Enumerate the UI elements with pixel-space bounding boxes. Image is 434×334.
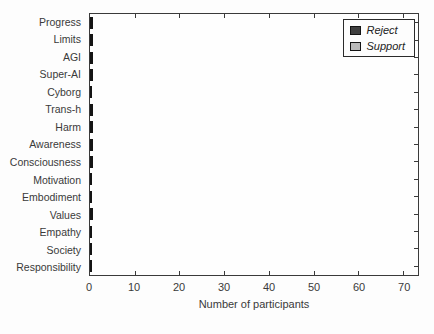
bar-row: [90, 84, 418, 101]
stacked-bar: [90, 260, 92, 272]
bar-segment-support: [91, 104, 93, 116]
x-tick-label: 10: [128, 281, 140, 293]
bar-segment-support: [90, 173, 92, 185]
legend-item-reject: Reject: [350, 24, 405, 36]
x-axis-tick: [269, 14, 270, 18]
y-axis-tick: [414, 74, 418, 75]
legend-swatch-support: [350, 42, 361, 51]
chart-figure: ProgressLimitsAGISuper-AICyborgTrans-hHa…: [0, 0, 434, 334]
bar-row: [90, 66, 418, 83]
x-axis-tick: [179, 271, 180, 275]
legend-item-support: Support: [350, 40, 405, 52]
x-axis-tick: [224, 14, 225, 18]
x-axis-tick: [135, 271, 136, 275]
x-axis-tick: [314, 14, 315, 18]
bar-row: [90, 136, 418, 153]
y-axis-tick: [414, 57, 418, 58]
stacked-bar: [90, 104, 93, 116]
y-axis-tick: [414, 214, 418, 215]
bar-row: [90, 240, 418, 257]
category-label: Responsibility: [0, 258, 85, 276]
bar-segment-support: [91, 34, 93, 46]
x-axis-tick: [135, 14, 136, 18]
stacked-bar: [90, 156, 93, 168]
bar-segment-support: [91, 121, 93, 133]
bar-row: [90, 101, 418, 118]
x-axis-title: Number of participants: [89, 298, 419, 310]
stacked-bar: [90, 191, 92, 203]
y-axis-tick: [414, 40, 418, 41]
bar-row: [90, 153, 418, 170]
stacked-bar: [90, 173, 92, 185]
y-axis-tick: [414, 144, 418, 145]
x-axis-tick: [358, 14, 359, 18]
x-tick-label: 60: [353, 281, 365, 293]
x-axis-tick: [403, 14, 404, 18]
y-axis-tick: [414, 22, 418, 23]
bar-segment-support: [91, 139, 93, 151]
x-tick-label: 0: [86, 281, 92, 293]
stacked-bar: [90, 86, 92, 98]
bar-segment-support: [91, 156, 93, 168]
stacked-bar: [90, 52, 93, 64]
category-label: Empathy: [0, 223, 85, 241]
bar-row: [90, 118, 418, 135]
bar-segment-support: [91, 69, 93, 81]
stacked-bar: [90, 34, 93, 46]
y-axis-tick: [414, 231, 418, 232]
category-label: Progress: [0, 13, 85, 31]
bar-segment-support: [90, 86, 92, 98]
y-axis-tick: [414, 161, 418, 162]
category-label: AGI: [0, 48, 85, 66]
x-tick-label: 40: [263, 281, 275, 293]
stacked-bar: [90, 226, 92, 238]
category-label: Harm: [0, 118, 85, 136]
x-axis-tick: [269, 271, 270, 275]
category-label: Values: [0, 206, 85, 224]
stacked-bar: [90, 208, 93, 220]
stacked-bar: [90, 69, 93, 81]
x-tick-label: 30: [218, 281, 230, 293]
category-label: Awareness: [0, 136, 85, 154]
bar-segment-support: [91, 208, 93, 220]
x-axis-tick: [314, 271, 315, 275]
category-label: Super-AI: [0, 66, 85, 84]
x-axis-tick: [179, 14, 180, 18]
category-label: Cyborg: [0, 83, 85, 101]
bar-segment-support: [91, 52, 93, 64]
y-axis-tick: [414, 266, 418, 267]
x-tick-label: 50: [308, 281, 320, 293]
y-axis-tick: [414, 127, 418, 128]
x-tick-labels: 010203040506070: [89, 281, 419, 295]
bar-segment-support: [90, 260, 92, 272]
category-label: Motivation: [0, 171, 85, 189]
bar-row: [90, 188, 418, 205]
plot-area: RejectSupport: [89, 13, 419, 276]
x-tick-label: 70: [398, 281, 410, 293]
x-tick-label: 20: [173, 281, 185, 293]
legend-label: Reject: [366, 24, 397, 36]
category-label: Embodiment: [0, 188, 85, 206]
bar-segment-support: [90, 243, 92, 255]
stacked-bar: [90, 243, 92, 255]
category-label: Society: [0, 241, 85, 259]
category-label: Consciousness: [0, 153, 85, 171]
x-axis-tick: [403, 271, 404, 275]
bar-row: [90, 223, 418, 240]
legend: RejectSupport: [343, 19, 415, 57]
x-axis-tick: [224, 271, 225, 275]
y-axis-tick: [414, 196, 418, 197]
bar-row: [90, 171, 418, 188]
y-axis-tick: [414, 109, 418, 110]
y-axis-tick: [414, 92, 418, 93]
category-labels: ProgressLimitsAGISuper-AICyborgTrans-hHa…: [0, 13, 85, 276]
y-axis-tick: [414, 179, 418, 180]
legend-label: Support: [366, 40, 405, 52]
y-axis-tick: [414, 248, 418, 249]
bar-segment-support: [90, 226, 92, 238]
bar-row: [90, 258, 418, 275]
category-label: Limits: [0, 31, 85, 49]
bar-row: [90, 205, 418, 222]
stacked-bar: [90, 17, 93, 29]
bar-segment-support: [90, 191, 92, 203]
